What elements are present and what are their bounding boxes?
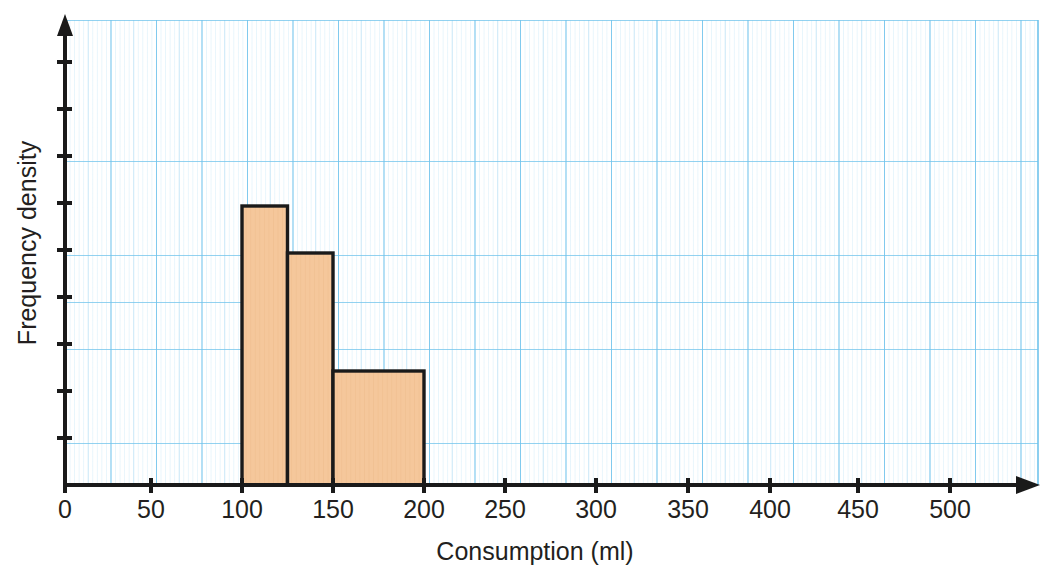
x-tick-label: 250 [484,495,526,523]
x-tick-label: 500 [929,495,971,523]
histogram-bar-125-150 [288,253,334,485]
x-tick-label: 50 [137,495,165,523]
x-tick-label: 0 [58,495,72,523]
chart-canvas: 0 50 100 150 200 250 300 350 400 450 500… [0,0,1056,582]
x-tick-label: 450 [837,495,879,523]
grid-paper [65,20,1038,485]
x-axis-tick-labels: 0 50 100 150 200 250 300 350 400 450 500 [58,495,971,523]
x-tick-label: 400 [749,495,791,523]
x-tick-label: 150 [312,495,354,523]
x-tick-label: 350 [667,495,709,523]
grid-major-lines [65,20,1038,485]
x-tick-label: 200 [403,495,445,523]
x-tick-label: 100 [221,495,263,523]
histogram-bar-100-125 [242,206,288,485]
histogram-chart: 0 50 100 150 200 250 300 350 400 450 500… [0,0,1056,582]
histogram-bar-150-200 [333,371,424,485]
x-tick-label: 300 [575,495,617,523]
y-axis-title: Frequency density [13,140,41,345]
x-axis-title: Consumption (ml) [436,537,633,565]
